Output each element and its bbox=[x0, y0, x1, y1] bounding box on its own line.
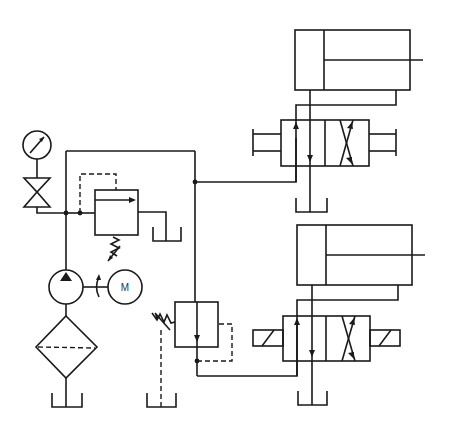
filter-icon bbox=[36, 316, 97, 407]
pressure-relief-valve-icon bbox=[80, 174, 166, 261]
sequence-valve-icon bbox=[152, 302, 297, 407]
motor-label: M bbox=[121, 282, 129, 293]
tank-icon bbox=[153, 227, 181, 241]
tank-icon bbox=[296, 198, 327, 212]
cylinder-2-icon bbox=[297, 225, 425, 316]
cylinder-1-icon bbox=[295, 30, 423, 120]
electric-motor-icon: M bbox=[108, 270, 142, 304]
pump-icon bbox=[49, 270, 108, 316]
tank-icon bbox=[52, 393, 82, 407]
directional-valve-1-icon bbox=[253, 120, 396, 212]
pressure-gauge-icon bbox=[23, 131, 51, 178]
shutoff-valve-icon bbox=[24, 178, 66, 213]
hydraulic-schematic: M bbox=[0, 0, 451, 436]
